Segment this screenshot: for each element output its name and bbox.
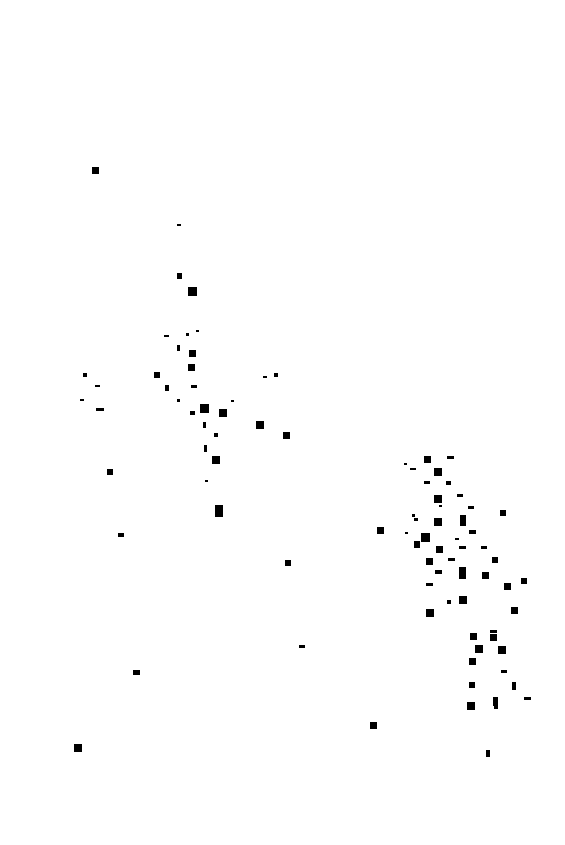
data-point-marker [446, 481, 451, 485]
data-point-marker [205, 480, 208, 482]
data-point-marker [481, 546, 487, 549]
data-point-marker [467, 702, 475, 710]
data-point-marker [424, 456, 431, 463]
data-point-marker [512, 682, 516, 690]
data-point-marker [460, 515, 466, 526]
data-point-marker [521, 578, 527, 584]
data-point-marker [405, 532, 408, 534]
data-point-marker [177, 399, 180, 402]
data-point-marker [494, 705, 498, 709]
data-point-marker [203, 422, 206, 428]
data-point-marker [468, 506, 474, 509]
data-point-marker [118, 533, 124, 537]
data-point-marker [490, 634, 497, 641]
data-point-marker [74, 744, 82, 752]
data-point-marker [188, 364, 195, 371]
data-point-marker [459, 567, 466, 579]
data-point-marker [154, 372, 160, 378]
data-point-marker [455, 538, 459, 540]
data-point-marker [504, 583, 511, 590]
data-point-marker [524, 697, 531, 700]
data-point-marker [469, 530, 476, 534]
data-point-marker [263, 376, 267, 378]
data-point-marker [439, 505, 442, 507]
data-point-marker [214, 433, 218, 437]
data-point-marker [83, 373, 87, 377]
data-point-marker [404, 463, 407, 465]
scatter-plot-canvas [0, 0, 565, 845]
data-point-marker [299, 645, 305, 648]
data-point-marker [200, 404, 209, 413]
data-point-marker [414, 541, 420, 548]
data-point-marker [186, 333, 189, 336]
data-point-marker [482, 572, 489, 579]
data-point-marker [274, 373, 278, 377]
data-point-marker [426, 609, 434, 617]
data-point-marker [426, 558, 433, 565]
data-point-marker [426, 583, 433, 586]
data-point-marker [133, 670, 140, 675]
data-point-marker [165, 385, 169, 391]
data-point-marker [498, 646, 506, 654]
data-point-marker [191, 385, 197, 388]
data-point-marker [486, 750, 490, 757]
data-point-marker [188, 287, 197, 296]
data-point-marker [469, 682, 475, 688]
data-point-marker [434, 518, 442, 526]
data-point-marker [285, 560, 291, 566]
data-point-marker [436, 546, 443, 553]
data-point-marker [492, 557, 498, 563]
data-point-marker [470, 633, 477, 640]
data-point-marker [204, 445, 207, 452]
data-point-marker [370, 722, 377, 729]
data-point-marker [256, 421, 264, 429]
data-point-marker [447, 456, 454, 459]
data-point-marker [469, 658, 476, 665]
data-point-marker [80, 399, 84, 401]
data-point-marker [177, 345, 180, 351]
data-point-marker [231, 400, 234, 402]
data-point-marker [95, 385, 100, 387]
data-point-marker [190, 411, 195, 415]
data-point-marker [421, 533, 430, 542]
data-point-marker [448, 558, 455, 561]
data-point-marker [434, 468, 442, 476]
data-point-marker [447, 600, 451, 604]
data-point-marker [511, 607, 518, 614]
data-point-marker [410, 468, 416, 470]
data-point-marker [412, 514, 415, 517]
data-point-marker [434, 495, 442, 503]
data-point-marker [212, 456, 220, 464]
data-point-marker [414, 518, 418, 521]
data-point-marker [164, 335, 169, 337]
data-point-marker [490, 630, 497, 633]
data-point-marker [283, 432, 290, 439]
data-point-marker [96, 408, 104, 411]
data-point-marker [475, 645, 483, 653]
data-point-marker [107, 469, 113, 475]
data-point-marker [459, 596, 467, 604]
data-point-marker [215, 505, 223, 517]
data-point-marker [501, 670, 507, 673]
data-point-marker [196, 330, 199, 332]
data-point-marker [177, 224, 181, 226]
data-point-marker [459, 546, 466, 549]
data-point-marker [189, 350, 196, 357]
data-point-marker [457, 494, 463, 497]
data-point-marker [92, 167, 99, 174]
data-point-marker [500, 510, 506, 516]
data-point-marker [424, 481, 430, 484]
data-point-marker [219, 409, 227, 417]
data-point-marker [377, 527, 384, 534]
plot-surface [0, 0, 565, 845]
data-point-marker [435, 570, 442, 574]
data-point-marker [177, 273, 182, 279]
